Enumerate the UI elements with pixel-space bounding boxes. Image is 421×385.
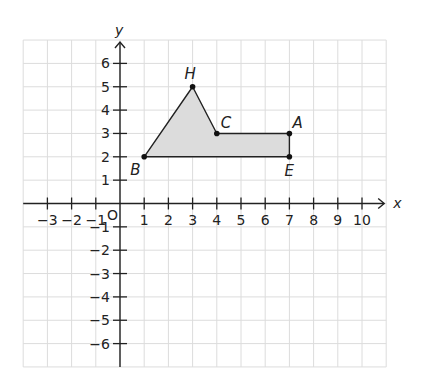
- x-tick-label: −2: [61, 212, 82, 228]
- x-tick-label: 7: [285, 212, 294, 228]
- point-label-a: A: [291, 114, 302, 132]
- x-axis-label: x: [392, 195, 402, 211]
- point-a: [287, 131, 293, 137]
- y-axis-label: y: [114, 22, 124, 38]
- x-tick-label: −3: [37, 212, 58, 228]
- x-tick-label: 2: [164, 212, 173, 228]
- x-tick-label: 5: [237, 212, 246, 228]
- y-tick-label: −6: [89, 336, 110, 352]
- y-tick-label: 6: [101, 55, 110, 71]
- x-tick-label: 10: [353, 212, 371, 228]
- x-tick-label: 8: [309, 212, 318, 228]
- y-tick-label: −1: [89, 219, 110, 235]
- y-tick-label: 5: [101, 79, 110, 95]
- y-tick-label: 4: [101, 102, 110, 118]
- point-c: [214, 131, 220, 137]
- y-tick-label: −4: [89, 289, 110, 305]
- point-h: [190, 84, 196, 90]
- point-label-h: H: [185, 65, 196, 83]
- x-tick-label: 3: [188, 212, 197, 228]
- point-b: [141, 154, 147, 160]
- point-label-c: C: [221, 114, 232, 132]
- y-tick-label: −3: [89, 266, 110, 282]
- axes: xyO: [23, 22, 402, 367]
- y-tick-label: −5: [89, 312, 110, 328]
- point-label-e: E: [284, 162, 294, 180]
- x-tick-label: 1: [140, 212, 149, 228]
- y-tick-label: 3: [101, 125, 110, 141]
- y-tick-label: −2: [89, 242, 110, 258]
- point-label-b: B: [130, 161, 140, 179]
- x-tick-label: 9: [333, 212, 342, 228]
- coordinate-plane: xyO −3−2−112345678910−6−5−4−3−2−1123456 …: [0, 0, 421, 385]
- point-e: [287, 154, 293, 160]
- x-tick-label: 4: [212, 212, 221, 228]
- y-tick-label: 1: [101, 172, 110, 188]
- y-tick-label: 2: [101, 149, 110, 165]
- x-tick-label: 6: [261, 212, 270, 228]
